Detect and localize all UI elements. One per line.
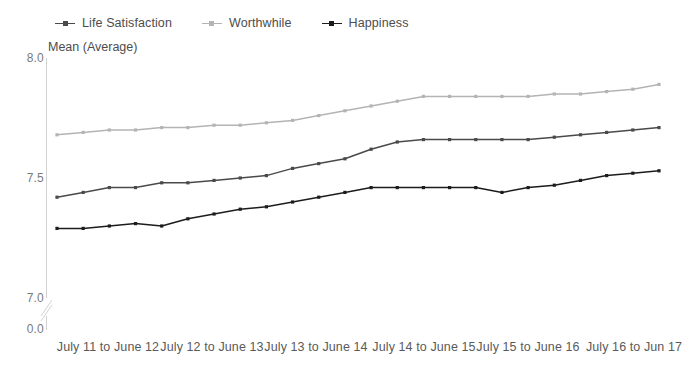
- series-line: [57, 171, 659, 229]
- data-point-marker: [500, 95, 503, 98]
- series-worthwhile: [55, 83, 660, 137]
- data-point-marker: [553, 136, 556, 139]
- data-point-marker: [108, 128, 111, 131]
- data-point-marker: [422, 186, 425, 189]
- data-point-marker: [500, 191, 503, 194]
- data-point-marker: [160, 126, 163, 129]
- data-point-marker: [369, 186, 372, 189]
- data-point-marker: [291, 200, 294, 203]
- y-axis-title: Mean (Average): [48, 40, 137, 54]
- series-happiness: [55, 169, 660, 230]
- data-point-marker: [579, 179, 582, 182]
- data-point-marker: [134, 128, 137, 131]
- data-point-marker: [422, 138, 425, 141]
- legend-point-marker: [209, 21, 214, 26]
- legend-marker-happiness: [322, 18, 342, 28]
- data-point-marker: [553, 184, 556, 187]
- data-point-marker: [212, 179, 215, 182]
- data-point-marker: [631, 172, 634, 175]
- legend-point-marker: [63, 21, 68, 26]
- y-axis-line: [46, 58, 47, 298]
- data-point-marker: [265, 174, 268, 177]
- legend-label-worthwhile: Worthwhile: [229, 16, 292, 30]
- data-point-marker: [55, 133, 58, 136]
- x-tick-label-0: July 11 to June 12: [57, 340, 159, 354]
- data-point-marker: [605, 174, 608, 177]
- data-point-marker: [500, 138, 503, 141]
- data-point-marker: [343, 191, 346, 194]
- data-point-marker: [82, 227, 85, 230]
- legend-label-happiness: Happiness: [349, 16, 409, 30]
- chart-legend: Life Satisfaction Worthwhile Happiness: [55, 14, 409, 32]
- legend-marker-life-satisfaction: [55, 18, 75, 28]
- x-tick-label-3: July 14 to June 15: [372, 340, 475, 354]
- data-point-marker: [474, 138, 477, 141]
- data-point-marker: [579, 133, 582, 136]
- data-point-marker: [239, 208, 242, 211]
- data-point-marker: [108, 186, 111, 189]
- data-point-marker: [239, 124, 242, 127]
- data-point-marker: [553, 92, 556, 95]
- x-axis-tick-labels: July 11 to June 12 July 12 to June 13 Ju…: [0, 340, 690, 360]
- chart-plot-area: [0, 0, 690, 377]
- data-point-marker: [605, 131, 608, 134]
- x-tick-label-1: July 12 to June 13: [160, 340, 263, 354]
- data-point-marker: [160, 224, 163, 227]
- data-point-marker: [291, 119, 294, 122]
- data-point-marker: [317, 196, 320, 199]
- data-point-marker: [160, 181, 163, 184]
- data-point-marker: [448, 138, 451, 141]
- data-point-marker: [134, 222, 137, 225]
- legend-item-life-satisfaction[interactable]: Life Satisfaction: [55, 16, 172, 30]
- data-point-marker: [291, 167, 294, 170]
- data-point-marker: [317, 162, 320, 165]
- data-point-marker: [82, 191, 85, 194]
- x-tick-label-2: July 13 to June 14: [264, 340, 367, 354]
- data-point-marker: [631, 88, 634, 91]
- legend-label-life-satisfaction: Life Satisfaction: [82, 16, 172, 30]
- y-tick-label-7-5: 7.5: [10, 171, 44, 185]
- data-point-marker: [579, 92, 582, 95]
- data-point-marker: [657, 169, 660, 172]
- data-point-marker: [343, 157, 346, 160]
- legend-point-marker: [329, 21, 334, 26]
- data-point-marker: [448, 95, 451, 98]
- data-point-marker: [396, 100, 399, 103]
- data-point-marker: [527, 138, 530, 141]
- data-point-marker: [396, 140, 399, 143]
- data-point-marker: [108, 224, 111, 227]
- data-point-marker: [527, 186, 530, 189]
- data-point-marker: [55, 227, 58, 230]
- data-point-marker: [396, 186, 399, 189]
- data-point-marker: [527, 95, 530, 98]
- data-point-marker: [448, 186, 451, 189]
- data-point-marker: [239, 176, 242, 179]
- data-point-marker: [134, 186, 137, 189]
- data-point-marker: [657, 83, 660, 86]
- y-tick-label-0-0: 0.0: [10, 322, 44, 336]
- data-point-marker: [369, 148, 372, 151]
- legend-item-worthwhile[interactable]: Worthwhile: [202, 16, 292, 30]
- x-tick-label-5: July 16 to Jun 17: [586, 340, 682, 354]
- data-point-marker: [265, 121, 268, 124]
- x-tick-label-4: July 15 to June 16: [476, 340, 579, 354]
- series-life-satisfaction: [55, 126, 660, 199]
- data-point-marker: [212, 212, 215, 215]
- data-point-marker: [631, 128, 634, 131]
- data-point-marker: [265, 205, 268, 208]
- series-line: [57, 84, 659, 134]
- data-point-marker: [186, 217, 189, 220]
- legend-item-happiness[interactable]: Happiness: [322, 16, 409, 30]
- series-line: [57, 128, 659, 198]
- data-point-marker: [343, 109, 346, 112]
- y-tick-label-8-0: 8.0: [10, 51, 44, 65]
- data-point-marker: [82, 131, 85, 134]
- data-point-marker: [474, 95, 477, 98]
- data-point-marker: [369, 104, 372, 107]
- legend-marker-worthwhile: [202, 18, 222, 28]
- data-point-marker: [186, 181, 189, 184]
- data-point-marker: [317, 114, 320, 117]
- chart-container: Life Satisfaction Worthwhile Happiness M…: [0, 0, 690, 377]
- data-point-marker: [55, 196, 58, 199]
- data-point-marker: [186, 126, 189, 129]
